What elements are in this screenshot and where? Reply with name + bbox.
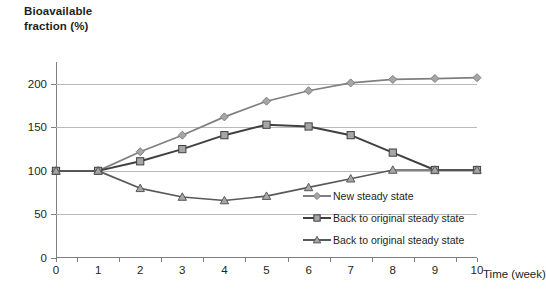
diamond-marker [431,75,439,83]
diamond-marker [305,87,313,95]
y-tick-label: 200 [28,78,47,90]
x-tick-mark [77,258,78,262]
x-tick-mark [203,258,204,262]
x-tick-label: 10 [471,264,484,276]
legend-label: New steady state [333,190,414,202]
legend-item-1: New steady state [297,185,477,207]
y-tick-label: 0 [41,252,47,264]
x-tick-label: 0 [53,264,59,276]
square-marker [314,215,320,221]
x-tick-label: 2 [137,264,143,276]
x-tick-label: 7 [347,264,353,276]
x-tick-label: 4 [221,264,227,276]
legend-marker-square [302,211,332,225]
y-axis-title: Bioavailable fraction (%) [24,4,92,34]
legend-label: Back to original steady state [333,212,464,224]
x-tick-label: 8 [390,264,396,276]
y-tick-label: 50 [34,208,47,220]
legend-item-3: Back to original steady state [297,229,477,251]
diamond-marker [473,74,481,82]
series-2 [52,121,480,174]
x-tick-label: 3 [179,264,185,276]
legend-label: Back to original steady state [333,234,464,246]
diamond-marker [136,148,144,156]
y-tick-label: 150 [28,121,47,133]
diamond-marker [313,192,320,199]
square-marker [305,123,312,130]
x-tick-mark [56,258,57,262]
square-marker [263,121,270,128]
x-tick-label: 5 [263,264,269,276]
x-tick-mark [288,258,289,262]
x-tick-label: 1 [95,264,101,276]
x-tick-label: 9 [432,264,438,276]
x-tick-mark [330,258,331,262]
x-tick-mark [456,258,457,262]
diamond-marker [263,97,271,105]
x-axis-title: Time (week) [483,268,546,280]
x-tick-mark [245,258,246,262]
diamond-marker [178,131,186,139]
diamond-marker [389,75,397,83]
y-tick-label: 100 [28,165,47,177]
diamond-marker [220,113,228,121]
x-tick-mark [414,258,415,262]
square-marker [347,132,354,139]
square-marker [221,132,228,139]
series-line [56,125,477,171]
square-marker [179,146,186,153]
x-tick-mark [372,258,373,262]
x-tick-mark [119,258,120,262]
square-marker [137,158,144,165]
square-marker [389,149,396,156]
x-tick-mark [477,258,478,262]
x-tick-label: 6 [305,264,311,276]
legend-marker-diamond [302,189,332,203]
x-tick-mark [161,258,162,262]
legend-marker-triangle [302,233,332,247]
chart-legend: New steady stateBack to original steady … [297,185,477,251]
diamond-marker [347,79,355,87]
legend-item-2: Back to original steady state [297,207,477,229]
